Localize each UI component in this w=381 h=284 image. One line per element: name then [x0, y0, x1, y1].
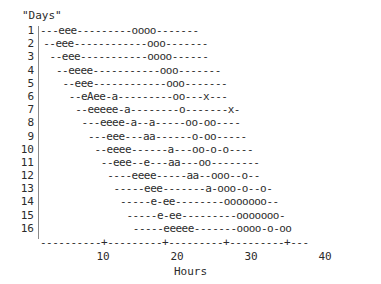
plot-row: 7 --eeeee-a--------o-------x- [0, 103, 381, 116]
plot-row: 12 ----eeee-----aa--ooo--o-- [0, 169, 381, 182]
plot-rows: 1 ---eee---------oooo------- 2 --eee----… [0, 24, 381, 235]
row-series-7: --eeeee-a--------o-------x- [75, 103, 240, 116]
ascii-text-plot: "Days" 1 ---eee---------oooo------- 2 --… [0, 0, 381, 284]
y-tick-label: 10 [0, 143, 34, 156]
row-series-4: --eeee-----------ooo------- [56, 64, 221, 77]
plot-row: 9 ---eee---aa------o-oo----- [0, 130, 381, 143]
plot-row: 2 --eee------------ooo------- [0, 37, 381, 50]
y-tick-label: 1 [0, 24, 34, 37]
plot-row: 15 -----e-ee---------ooooooo- [0, 209, 381, 222]
row-series-10: --eeee------a---oo-o-o---- [94, 143, 253, 156]
x-tick-label-40: 40 [318, 250, 331, 263]
plot-row: 3 --eee-----------oooo------ [0, 50, 381, 63]
y-tick-label: 9 [0, 130, 34, 143]
x-tick-label-30: 30 [244, 250, 257, 263]
x-axis-line: ----------+---------+---------+---------… [40, 236, 309, 249]
row-series-6: --eAee-a---------oo---x--- [69, 90, 228, 103]
x-axis-title: Hours [0, 265, 381, 278]
row-series-14: -----e-ee--------ooooooo-- [120, 195, 279, 208]
y-tick-label: 16 [0, 222, 34, 235]
x-tick-label-20: 20 [170, 250, 183, 263]
y-tick-label: 11 [0, 156, 34, 169]
y-tick-label: 13 [0, 182, 34, 195]
plot-row: 4 --eeee-----------ooo------- [0, 64, 381, 77]
y-tick-label: 7 [0, 103, 34, 116]
y-tick-label: 15 [0, 209, 34, 222]
y-tick-label: 3 [0, 50, 34, 63]
y-tick-label: 2 [0, 37, 34, 50]
plot-row: 16 -----eeeee-------oooo-o-oo [0, 222, 381, 235]
row-series-1: ---eee---------oooo------- [40, 24, 199, 37]
row-series-3: --eee-----------oooo------ [50, 50, 209, 63]
y-tick-label: 4 [0, 64, 34, 77]
y-tick-label: 5 [0, 77, 34, 90]
plot-row: 13 -----eee-------a-ooo-o--o- [0, 182, 381, 195]
row-series-2: --eee------------ooo------- [43, 37, 208, 50]
x-tick-labels: 10 20 30 40 [40, 250, 381, 264]
y-tick-label: 12 [0, 169, 34, 182]
y-tick-label: 6 [0, 90, 34, 103]
y-axis-title: "Days" [22, 9, 62, 22]
y-tick-label: 14 [0, 195, 34, 208]
row-series-11: --eee--e---aa---oo-------- [101, 156, 260, 169]
plot-row: 10 --eeee------a---oo-o-o---- [0, 143, 381, 156]
row-series-5: --eee------------ooo------- [62, 77, 227, 90]
row-series-9: ---eee---aa------o-oo----- [88, 130, 247, 143]
row-series-12: ----eeee-----aa--ooo--o-- [107, 169, 260, 182]
row-series-15: -----e-ee---------ooooooo- [126, 209, 285, 222]
y-tick-label: 8 [0, 116, 34, 129]
x-tick-label-10: 10 [96, 250, 109, 263]
plot-row: 11 --eee--e---aa---oo-------- [0, 156, 381, 169]
plot-row: 8 ---eeee-a--a-----oo-oo---- [0, 116, 381, 129]
row-series-16: -----eeeee-------oooo-o-oo [133, 222, 292, 235]
row-series-13: -----eee-------a-ooo-o--o- [114, 182, 273, 195]
row-series-8: ---eeee-a--a-----oo-oo---- [82, 116, 241, 129]
plot-row: 6 --eAee-a---------oo---x--- [0, 90, 381, 103]
plot-row: 1 ---eee---------oooo------- [0, 24, 381, 37]
plot-row: 5 --eee------------ooo------- [0, 77, 381, 90]
plot-row: 14 -----e-ee--------ooooooo-- [0, 195, 381, 208]
